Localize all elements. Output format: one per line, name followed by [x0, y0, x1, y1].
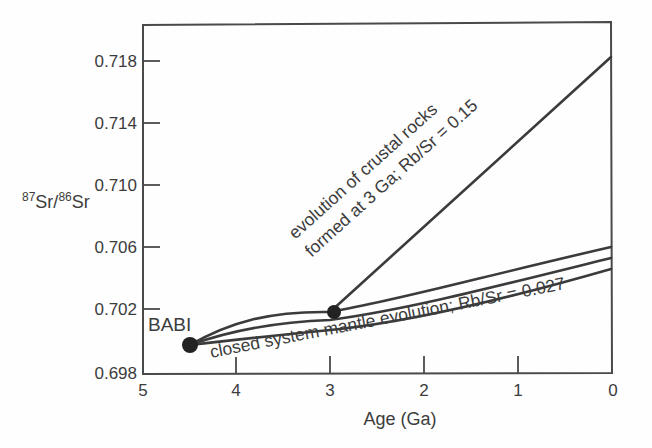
x-tick-label: 3	[325, 381, 334, 400]
y-tick-label: 0.706	[94, 238, 137, 257]
svg-text:87Sr/86Sr: 87Sr/86Sr	[22, 190, 90, 212]
figure-container: 0.718 0.714 0.710 0.706 0.702 0.698 87Sr…	[0, 0, 652, 448]
y-axis-tick-labels: 0.718 0.714 0.710 0.706 0.702 0.698	[94, 52, 137, 383]
y-title-sup-87: 87	[22, 190, 36, 204]
x-tick-label: 5	[138, 381, 147, 400]
y-axis-ticks	[143, 61, 160, 309]
curve-mantle-middle	[190, 258, 611, 345]
crustal-annotation-line1: evolution of crustal rocks	[285, 99, 442, 243]
y-title-sup-86: 86	[58, 190, 72, 204]
y-tick-label: 0.714	[94, 114, 137, 133]
x-tick-label: 4	[231, 381, 240, 400]
x-tick-label: 2	[419, 381, 428, 400]
y-tick-label: 0.702	[94, 300, 137, 319]
x-tick-label: 0	[608, 381, 617, 400]
y-tick-label: 0.710	[94, 176, 137, 195]
y-axis-title: 87Sr/86Sr	[22, 190, 90, 212]
y-tick-label: 0.718	[94, 52, 137, 71]
sr-isotope-evolution-chart: 0.718 0.714 0.710 0.706 0.702 0.698 87Sr…	[0, 0, 652, 448]
x-axis-ticks	[236, 356, 518, 374]
crustal-rocks-annotation: evolution of crustal rocks formed at 3 G…	[285, 77, 482, 260]
babi-point-marker	[182, 337, 198, 353]
y-title-sr: Sr	[72, 192, 90, 212]
y-title-sr-slash: Sr/	[35, 192, 58, 212]
x-axis-title: Age (Ga)	[363, 409, 436, 429]
crustal-annotation-line2: formed at 3 Ga; Rb/Sr = 0.15	[301, 95, 482, 261]
x-tick-label: 1	[513, 381, 522, 400]
y-tick-label: 0.698	[94, 364, 137, 383]
x-axis-tick-labels: 5 4 3 2 1 0	[138, 381, 617, 400]
babi-label: BABI	[148, 314, 191, 335]
